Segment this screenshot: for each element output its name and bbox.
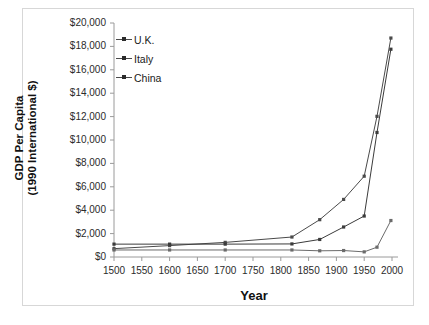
data-point <box>389 48 392 51</box>
data-point <box>168 248 171 251</box>
data-point <box>224 248 227 251</box>
data-point <box>112 243 115 246</box>
data-point <box>342 249 345 252</box>
data-point <box>375 246 378 249</box>
legend-line-icon <box>116 35 132 45</box>
data-point <box>168 243 171 246</box>
series-line-china <box>114 221 391 252</box>
legend-label-china: China <box>132 72 161 84</box>
data-point <box>342 225 345 228</box>
data-point <box>224 243 227 246</box>
chart-container: GDP Per Capita (1990 International $) Ye… <box>0 0 429 325</box>
data-point <box>375 115 378 118</box>
legend-item-china: China <box>116 68 196 87</box>
data-point <box>363 214 366 217</box>
legend-item-italy: Italy <box>116 49 196 68</box>
legend-line-icon <box>116 73 132 83</box>
data-point <box>389 219 392 222</box>
plot-area <box>0 0 429 325</box>
data-point <box>389 36 392 39</box>
data-point <box>112 248 115 251</box>
legend-label-uk: U.K. <box>132 34 154 46</box>
data-point <box>342 198 345 201</box>
data-point <box>363 250 366 253</box>
legend-line-icon <box>116 54 132 64</box>
data-point <box>290 242 293 245</box>
data-point <box>375 131 378 134</box>
data-point <box>318 218 321 221</box>
legend-item-uk: U.K. <box>116 30 196 49</box>
data-point <box>318 249 321 252</box>
data-point <box>363 175 366 178</box>
legend-label-italy: Italy <box>132 53 153 65</box>
data-point <box>290 248 293 251</box>
data-point <box>318 238 321 241</box>
data-point <box>290 235 293 238</box>
chart-legend: U.K. Italy China <box>116 30 196 87</box>
